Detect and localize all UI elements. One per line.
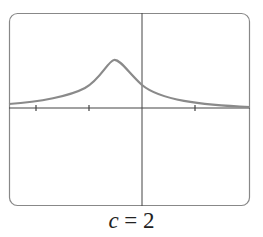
curve-series [9, 60, 250, 107]
plot-frame [10, 14, 250, 206]
chart-caption: c = 2 [0, 208, 263, 234]
caption-variable: c [108, 208, 118, 233]
chart-plot [0, 0, 263, 237]
caption-value: = 2 [119, 208, 155, 233]
